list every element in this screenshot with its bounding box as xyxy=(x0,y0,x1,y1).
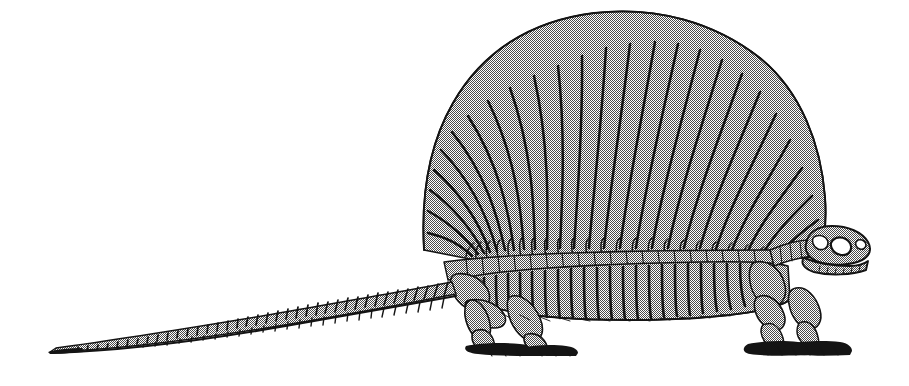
manus-front xyxy=(784,341,852,356)
skeleton-group xyxy=(48,11,870,356)
tail-body xyxy=(50,282,456,352)
fore-limb-group xyxy=(744,262,852,356)
sail-region xyxy=(423,11,825,259)
skull-naris xyxy=(856,240,866,249)
skull-orbit xyxy=(831,237,851,255)
figure-root: Line drawing of a Dimetrodon skeleton in… xyxy=(0,0,909,386)
tail-region xyxy=(48,282,456,354)
skull-temporal-fenestra xyxy=(813,235,828,249)
dimetrodon-skeleton-illustration xyxy=(0,0,909,386)
